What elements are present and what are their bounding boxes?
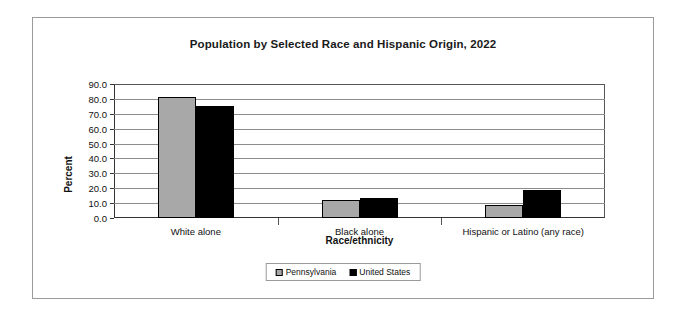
x-tick-mark xyxy=(441,218,442,225)
y-axis-title-text: Percent xyxy=(63,156,74,193)
y-tick-mark xyxy=(110,173,114,174)
y-tick-label: 50.0 xyxy=(89,138,108,149)
y-tick-mark xyxy=(110,158,114,159)
y-tick-mark xyxy=(110,203,114,204)
y-tick-mark xyxy=(110,188,114,189)
legend-label: United States xyxy=(359,267,410,277)
gridline xyxy=(114,99,605,100)
gridline xyxy=(114,203,605,204)
plot-area xyxy=(114,84,605,218)
x-tick-mark xyxy=(278,218,279,225)
y-tick-label: 0.0 xyxy=(94,213,107,224)
legend-swatch xyxy=(349,269,356,276)
y-tick-label: 80.0 xyxy=(89,93,108,104)
y-tick-label: 30.0 xyxy=(89,168,108,179)
gridline xyxy=(114,188,605,189)
legend-label: Pennsylvania xyxy=(286,267,337,277)
y-tick-mark xyxy=(110,144,114,145)
y-tick-mark xyxy=(110,114,114,115)
y-axis-title: Percent xyxy=(59,114,77,234)
y-tick-label: 20.0 xyxy=(89,183,108,194)
gridline xyxy=(114,129,605,130)
y-tick-mark xyxy=(110,99,114,100)
y-tick-label: 60.0 xyxy=(89,123,108,134)
y-tick-mark xyxy=(110,84,114,85)
y-tick-mark xyxy=(110,218,114,219)
gridline xyxy=(114,114,605,115)
y-tick-label: 10.0 xyxy=(89,198,108,209)
y-tick-label: 40.0 xyxy=(89,153,108,164)
chart-legend: PennsylvaniaUnited States xyxy=(266,263,421,281)
gridline xyxy=(114,144,605,145)
legend-item[interactable]: Pennsylvania xyxy=(276,267,337,277)
y-tick-label: 70.0 xyxy=(89,108,108,119)
y-tick-label: 90.0 xyxy=(89,79,108,90)
legend-item[interactable]: United States xyxy=(349,267,410,277)
gridline xyxy=(114,158,605,159)
chart-frame: Population by Selected Race and Hispanic… xyxy=(32,17,654,299)
legend-swatch xyxy=(276,269,283,276)
x-axis-title: Race/ethnicity xyxy=(114,235,605,246)
plot-wrap: 0.010.020.030.040.050.060.070.080.090.0 … xyxy=(114,84,605,218)
y-tick-mark xyxy=(110,129,114,130)
gridline xyxy=(114,173,605,174)
chart-title: Population by Selected Race and Hispanic… xyxy=(33,38,653,50)
